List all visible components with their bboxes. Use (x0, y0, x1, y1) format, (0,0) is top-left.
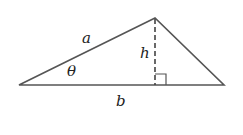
right-angle-marker (155, 74, 166, 85)
label-side-a: a (82, 29, 91, 47)
label-base-b: b (116, 92, 126, 110)
label-angle-theta: θ (67, 62, 76, 80)
triangle (19, 18, 224, 85)
triangle-diagram: a h θ b (0, 0, 243, 135)
label-height: h (140, 44, 150, 62)
